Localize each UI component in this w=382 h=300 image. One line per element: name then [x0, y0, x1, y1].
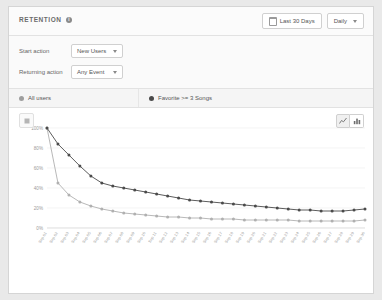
svg-text:Sep 09: Sep 09 — [125, 231, 136, 244]
svg-text:Sep 18: Sep 18 — [223, 231, 234, 244]
returning-action-label: Returning action — [9, 69, 71, 75]
svg-text:Sep 16: Sep 16 — [202, 231, 213, 244]
line-chart-icon[interactable] — [336, 114, 350, 128]
svg-text:Sep 29: Sep 29 — [344, 231, 355, 244]
svg-text:Sep 19: Sep 19 — [234, 231, 245, 244]
panel-header: RETENTION i Last 30 Days Daily — [9, 7, 373, 36]
svg-text:80%: 80% — [34, 146, 43, 151]
segment-item-all-users[interactable]: All users — [9, 89, 139, 107]
svg-text:Sep 02: Sep 02 — [48, 231, 59, 244]
svg-text:Sep 12: Sep 12 — [158, 231, 169, 244]
svg-text:Sep 01: Sep 01 — [37, 231, 48, 244]
chevron-down-icon — [353, 20, 357, 23]
start-action-value: New Users — [77, 48, 106, 54]
returning-action-select[interactable]: Any Event — [71, 65, 123, 79]
chart-container: 0%20%40%60%80%100%Sep 01Sep 02Sep 03Sep … — [9, 108, 373, 286]
svg-text:Sep 21: Sep 21 — [256, 231, 267, 244]
chevron-down-icon — [113, 71, 117, 74]
svg-text:Sep 22: Sep 22 — [267, 231, 278, 244]
start-action-select[interactable]: New Users — [71, 44, 123, 58]
filter-section: Start action New Users Returning action … — [9, 36, 373, 89]
chevron-down-icon — [113, 50, 117, 53]
filter-row-returning-action: Returning action Any Event — [9, 64, 373, 80]
svg-text:Sep 30: Sep 30 — [355, 230, 366, 244]
svg-text:Sep 27: Sep 27 — [322, 231, 333, 244]
segment-item-favorite-songs[interactable]: Favorite >= 3 Songs — [139, 89, 373, 107]
bar-chart-icon[interactable] — [350, 114, 364, 128]
svg-text:Sep 15: Sep 15 — [191, 231, 202, 244]
chart-type-toggle — [336, 114, 364, 128]
svg-text:Sep 28: Sep 28 — [333, 231, 344, 244]
svg-text:Sep 05: Sep 05 — [81, 231, 92, 244]
svg-text:Sep 13: Sep 13 — [169, 231, 180, 244]
segment-label: All users — [28, 95, 51, 101]
svg-text:Sep 20: Sep 20 — [245, 230, 256, 244]
svg-text:Sep 06: Sep 06 — [92, 231, 103, 244]
svg-text:60%: 60% — [34, 166, 43, 171]
svg-text:Sep 04: Sep 04 — [70, 230, 81, 244]
segment-color-dot — [19, 96, 24, 101]
svg-text:Sep 23: Sep 23 — [278, 231, 289, 244]
svg-text:40%: 40% — [34, 186, 43, 191]
svg-text:Sep 10: Sep 10 — [136, 230, 147, 244]
filter-row-start-action: Start action New Users — [9, 43, 373, 59]
svg-text:0%: 0% — [36, 226, 43, 231]
svg-text:Sep 25: Sep 25 — [300, 231, 311, 244]
date-range-label: Last 30 Days — [280, 18, 315, 24]
segment-bar: All users Favorite >= 3 Songs — [9, 89, 373, 108]
svg-text:Sep 03: Sep 03 — [59, 231, 70, 244]
header-controls: Last 30 Days Daily — [262, 13, 364, 29]
page-title: RETENTION — [19, 16, 62, 23]
svg-text:Sep 17: Sep 17 — [213, 231, 224, 244]
retention-panel: RETENTION i Last 30 Days Daily Start act… — [8, 6, 374, 294]
date-range-button[interactable]: Last 30 Days — [262, 13, 322, 29]
svg-text:Sep 08: Sep 08 — [114, 231, 125, 244]
chart-thumbnail-icon[interactable] — [19, 113, 34, 128]
svg-text:Sep 26: Sep 26 — [311, 231, 322, 244]
svg-text:Sep 11: Sep 11 — [147, 231, 158, 244]
svg-text:Sep 14: Sep 14 — [180, 230, 191, 244]
returning-action-value: Any Event — [77, 69, 104, 75]
granularity-select[interactable]: Daily — [327, 13, 364, 29]
retention-line-chart[interactable]: 0%20%40%60%80%100%Sep 01Sep 02Sep 03Sep … — [9, 114, 373, 286]
svg-text:Sep 07: Sep 07 — [103, 231, 114, 244]
granularity-label: Daily — [334, 18, 347, 24]
segment-color-dot — [149, 96, 154, 101]
info-icon[interactable]: i — [66, 17, 72, 23]
start-action-label: Start action — [9, 48, 71, 54]
calendar-icon — [269, 17, 277, 26]
segment-label: Favorite >= 3 Songs — [158, 95, 212, 101]
svg-text:20%: 20% — [34, 206, 43, 211]
svg-text:Sep 24: Sep 24 — [289, 230, 300, 244]
